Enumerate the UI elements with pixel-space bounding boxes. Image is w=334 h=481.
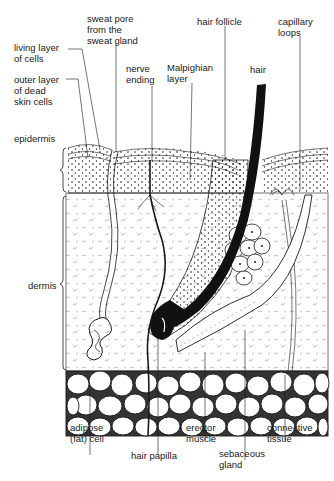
label-epidermis: epidermis [14, 133, 55, 144]
label-malpighian-layer: Malpighian layer [167, 62, 213, 84]
label-dermis: dermis [28, 280, 57, 291]
label-connective-tissue: connective tissue [267, 422, 312, 444]
label-erector-muscle: erector muscle [186, 422, 216, 444]
label-sebaceous-gland: sebaceous gland [219, 448, 265, 470]
label-hair: hair [250, 64, 266, 75]
label-nerve-ending: nerve ending [126, 63, 155, 85]
label-hair-follicle: hair follicle [197, 16, 242, 27]
epidermis-region [68, 144, 328, 193]
label-outer-layer: outer layer of dead skin cells [14, 74, 59, 107]
label-capillary-loops: capillary loops [278, 16, 313, 38]
label-sweat-pore: sweat pore from the sweat gland [87, 13, 138, 46]
label-living-layer: living layer of cells [14, 42, 59, 64]
layer-brackets [60, 148, 66, 370]
label-hair-papilla: hair papilla [131, 450, 177, 461]
label-adipose-cell: adipose (fat) cell [70, 422, 104, 444]
